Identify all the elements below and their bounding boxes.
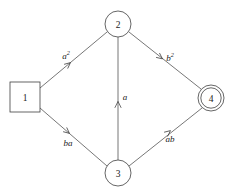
state-node-4-label: 4 xyxy=(209,94,214,104)
state-node-1[interactable]: 1 xyxy=(10,82,40,112)
edge-label-3-2: a xyxy=(123,92,128,102)
edge-label-3-4: ab xyxy=(166,134,176,144)
state-node-4[interactable]: 4 xyxy=(198,85,224,111)
nodes-group: 1 2 3 4 xyxy=(10,11,224,186)
state-node-1-label: 1 xyxy=(23,93,28,103)
edge-label-1-3-base: ba xyxy=(64,138,74,148)
edge-1-to-2[interactable]: a2 xyxy=(40,32,107,88)
automaton-canvas: a2 b2 ba xyxy=(0,0,239,193)
edge-3-to-4[interactable]: ab xyxy=(129,108,202,166)
edge-label-1-3: ba xyxy=(64,138,74,148)
edge-label-2-4-exponent: 2 xyxy=(171,51,174,58)
automaton-diagram: a2 b2 ba xyxy=(0,0,239,193)
state-node-3-label: 3 xyxy=(116,169,121,179)
edge-2-to-4[interactable]: b2 xyxy=(129,32,201,89)
edge-label-1-2: a2 xyxy=(62,49,70,61)
state-node-2-label: 2 xyxy=(116,20,121,30)
state-node-2[interactable]: 2 xyxy=(105,11,131,37)
edges-group: a2 b2 ba xyxy=(40,32,202,166)
edge-label-3-4-base: ab xyxy=(166,134,176,144)
edge-line-1-3 xyxy=(40,108,107,166)
edge-label-1-2-exponent: 2 xyxy=(67,49,70,56)
edge-1-to-3[interactable]: ba xyxy=(40,108,107,166)
edge-line-1-2 xyxy=(40,32,107,88)
edge-label-3-2-base: a xyxy=(123,92,128,102)
state-node-3[interactable]: 3 xyxy=(105,160,131,186)
edge-3-to-2[interactable]: a xyxy=(115,37,128,160)
edge-label-2-4: b2 xyxy=(166,51,174,63)
edge-line-2-4 xyxy=(129,32,201,89)
